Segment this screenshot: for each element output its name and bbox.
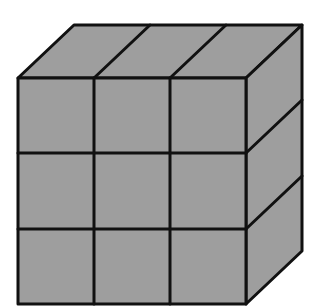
front-face xyxy=(18,78,246,304)
cube-diagram xyxy=(0,0,320,307)
cube-faces xyxy=(18,25,302,304)
